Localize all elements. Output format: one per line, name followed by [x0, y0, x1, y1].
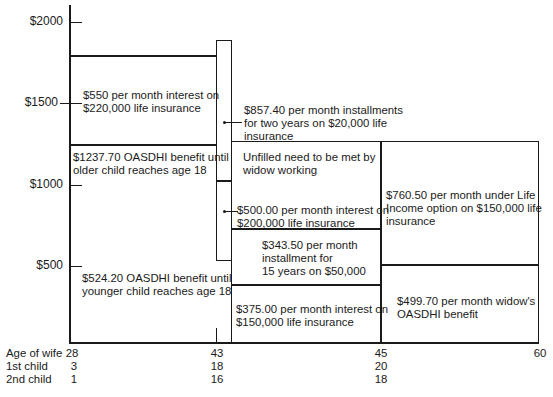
- y-tick-1500: [60, 103, 82, 104]
- y-tick-label-500: $500: [7, 258, 63, 272]
- row-label-2nd-child: 2nd child: [6, 373, 52, 385]
- child2-age-16: 16: [205, 373, 229, 385]
- column-43-45-upper: [216, 40, 232, 182]
- wife-age-43: 43: [205, 347, 229, 359]
- divider-500: [231, 228, 382, 230]
- y-tick-label-2000: $2000: [7, 14, 63, 28]
- label-widow-499: $499.70 per month widow's OASDHI benefit: [397, 295, 535, 321]
- label-life-income-760: $760.50 per month under Life Income opti…: [386, 189, 542, 228]
- divider-343: [231, 284, 382, 286]
- y-tick-label-1000: $1000: [7, 177, 63, 191]
- y-tick-500: [70, 266, 82, 267]
- wife-age-45: 45: [369, 347, 393, 359]
- label-interest-375: $375.00 per month interest on $150,000 l…: [236, 303, 388, 329]
- child1-age-20: 20: [369, 360, 393, 372]
- column-43-45-lower: [216, 180, 232, 261]
- child2-age-1: 1: [62, 373, 86, 385]
- child1-age-3: 3: [62, 360, 86, 372]
- divider-widow-oasdhi: [380, 264, 539, 266]
- row-label-age-of-wife: Age of wife: [6, 347, 62, 359]
- child1-age-18: 18: [205, 360, 229, 372]
- label-install-343: $343.50 per month installment for 15 yea…: [262, 239, 366, 278]
- pointer-line-857: [225, 122, 242, 123]
- row-label-1st-child: 1st child: [6, 360, 48, 372]
- label-unfilled: Unfilled need to be met by widow working: [243, 151, 375, 177]
- wife-age-60: 60: [528, 347, 552, 359]
- block-top-line-28-43: [70, 55, 217, 57]
- label-oasdhi-524: $524.20 OASDHI benefit until younger chi…: [82, 272, 231, 298]
- label-interest-550: $550 per month interest on $220,000 life…: [83, 89, 219, 115]
- child2-age-18: 18: [369, 373, 393, 385]
- y-tick-label-1500: $1500: [2, 95, 58, 109]
- label-install-857: $857.40 per month installments for two y…: [244, 104, 403, 143]
- wife-age-28: 28: [60, 347, 84, 359]
- y-tick-2000: [70, 22, 82, 23]
- block-divider-28-43: [70, 144, 217, 146]
- tick-43: [216, 328, 217, 343]
- y-tick-1000: [70, 185, 82, 186]
- label-oasdhi-1237: $1237.70 OASDHI benefit until older chil…: [73, 151, 229, 177]
